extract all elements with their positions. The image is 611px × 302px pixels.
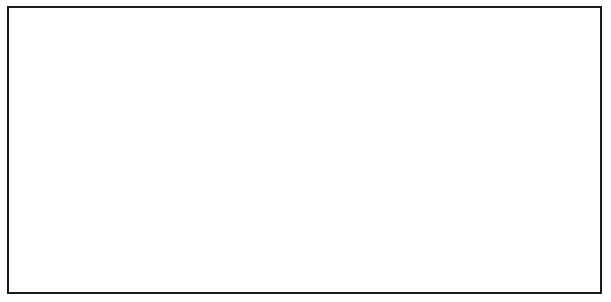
diagram-frame <box>7 6 602 294</box>
tides-diagram: Moon Pull of the moon North Pole High ti… <box>0 0 611 302</box>
